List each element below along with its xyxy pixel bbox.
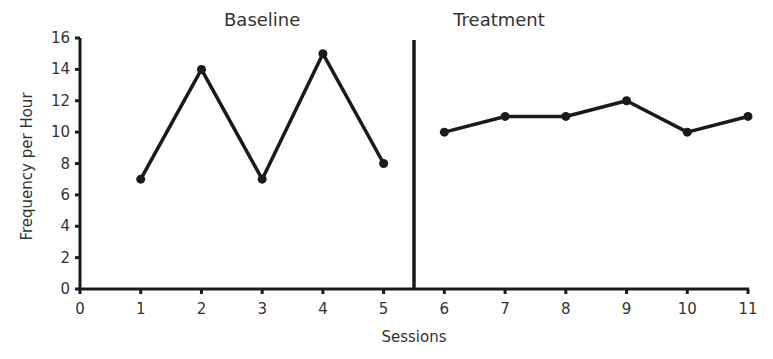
x-tick-label: 1 — [136, 300, 146, 318]
x-axis-title: Sessions — [381, 328, 446, 346]
x-tick-label: 5 — [379, 300, 389, 318]
y-tick-label: 10 — [51, 123, 70, 141]
y-axis: 0246810121416 — [51, 29, 80, 298]
y-tick-label: 8 — [60, 155, 70, 173]
y-axis-title: Frequency per Hour — [18, 92, 36, 241]
x-axis: 01234567891011 — [75, 289, 757, 318]
y-tick-label: 4 — [60, 217, 70, 235]
phase-label-treatment: Treatment — [452, 9, 545, 30]
x-tick-label: 4 — [318, 300, 328, 318]
y-tick-label: 6 — [60, 186, 70, 204]
data-point — [440, 128, 449, 137]
x-tick-label: 10 — [678, 300, 697, 318]
x-tick-label: 11 — [738, 300, 757, 318]
series-treatment — [440, 96, 753, 136]
data-point — [501, 112, 510, 121]
data-point — [197, 65, 206, 74]
x-tick-label: 6 — [440, 300, 450, 318]
data-point — [622, 96, 631, 105]
data-point — [379, 159, 388, 168]
series-baseline — [136, 49, 388, 184]
y-tick-label: 0 — [60, 280, 70, 298]
phase-label-baseline: Baseline — [224, 9, 300, 30]
single-case-design-chart: 0246810121416 01234567891011 BaselineTre… — [0, 0, 773, 359]
data-point — [683, 128, 692, 137]
x-tick-label: 2 — [197, 300, 207, 318]
x-tick-label: 3 — [257, 300, 267, 318]
y-tick-label: 14 — [51, 60, 70, 78]
y-tick-label: 16 — [51, 29, 70, 47]
data-point — [318, 49, 327, 58]
data-point — [258, 175, 267, 184]
x-tick-label: 0 — [75, 300, 85, 318]
x-tick-label: 8 — [561, 300, 571, 318]
x-tick-label: 7 — [500, 300, 510, 318]
data-point — [136, 175, 145, 184]
y-tick-label: 12 — [51, 92, 70, 110]
data-point — [744, 112, 753, 121]
chart-labels: BaselineTreatmentSessionsFrequency per H… — [18, 9, 545, 346]
x-tick-label: 9 — [622, 300, 632, 318]
data-point — [561, 112, 570, 121]
data-series — [136, 49, 752, 184]
series-line — [444, 101, 748, 132]
y-tick-label: 2 — [60, 249, 70, 267]
series-line — [141, 54, 384, 180]
